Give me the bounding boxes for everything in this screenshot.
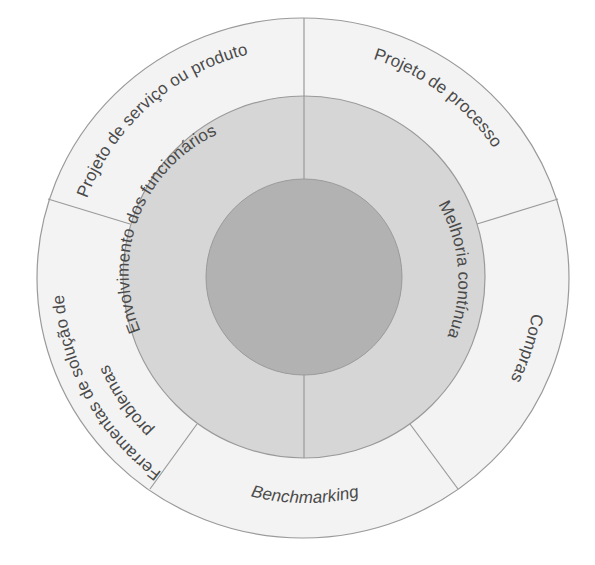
inner-circle	[206, 179, 402, 375]
concentric-ring-diagram: Projeto de serviço ou produto Projeto de…	[0, 0, 595, 565]
